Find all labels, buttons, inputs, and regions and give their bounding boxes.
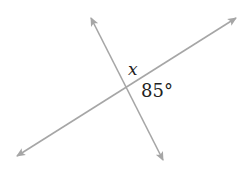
lines-svg	[0, 0, 249, 184]
diagram: x 85°	[0, 0, 249, 184]
line-2	[17, 18, 236, 156]
angle-label-x: x	[128, 59, 138, 79]
angle-label-85: 85°	[141, 80, 173, 101]
